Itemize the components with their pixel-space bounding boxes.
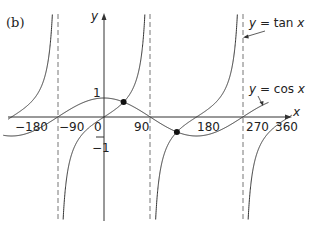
intersection-point-1 <box>121 99 127 105</box>
tan-legend-label: y = tan x <box>248 16 305 30</box>
x-tick-0: 0 <box>94 120 102 134</box>
x-axis-label: x <box>292 105 301 119</box>
y-axis-arrow-icon <box>102 13 107 20</box>
tan-pointer-arrow-icon <box>243 35 249 39</box>
tan-curve-branch-1 <box>8 14 52 119</box>
x-tick-360: 360 <box>275 120 298 134</box>
y-axis-label: y <box>90 9 99 23</box>
x-tick-neg90: −90 <box>59 120 84 134</box>
y-tick-1: 1 <box>93 86 101 100</box>
x-tick-neg180: −180 <box>15 120 48 134</box>
graph: (b) y x 1 −1 −180 −90 0 90 180 270 360 y… <box>0 0 314 237</box>
x-tick-90: 90 <box>134 120 149 134</box>
cos-legend-label: y = cos x <box>248 82 306 96</box>
y-tick-neg1: −1 <box>92 141 110 155</box>
x-tick-270: 270 <box>246 120 269 134</box>
x-tick-180: 180 <box>197 120 220 134</box>
panel-label: (b) <box>6 15 24 30</box>
intersection-point-2 <box>174 129 180 135</box>
